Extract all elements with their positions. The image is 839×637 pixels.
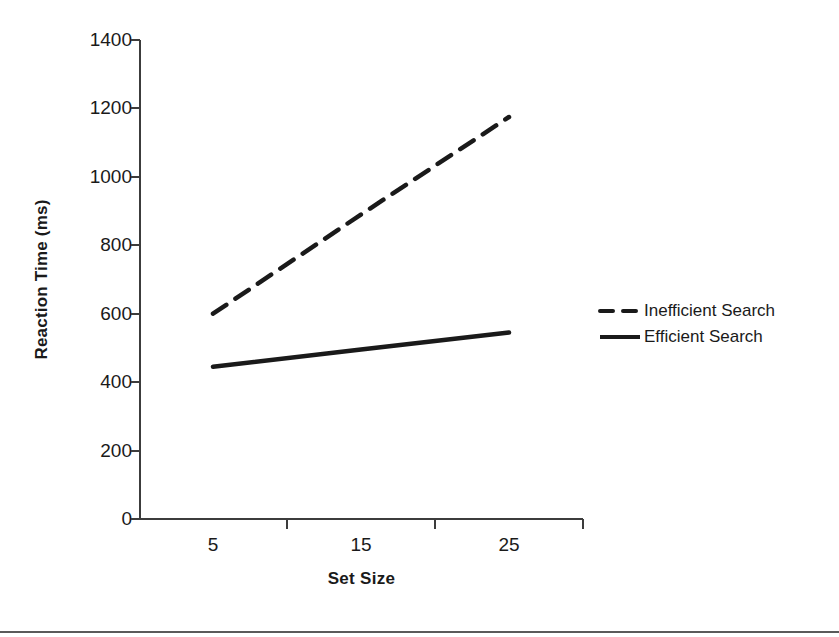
legend-label-efficient-search: Efficient Search bbox=[642, 327, 763, 347]
legend-item-inefficient-search: Inefficient Search bbox=[598, 298, 828, 324]
x-axis bbox=[140, 519, 583, 529]
bottom-divider bbox=[0, 631, 839, 633]
legend-swatch-dashed-line-icon bbox=[598, 303, 642, 319]
line-chart-figure: Reaction Time (ms) 0 200 400 600 800 100… bbox=[0, 0, 839, 637]
y-axis bbox=[131, 40, 140, 519]
legend-item-efficient-search: Efficient Search bbox=[598, 324, 828, 350]
legend-label-inefficient-search: Inefficient Search bbox=[642, 301, 775, 321]
series-line-inefficient-search bbox=[213, 117, 509, 314]
series-line-efficient-search bbox=[213, 333, 509, 367]
chart-legend: Inefficient Search Efficient Search bbox=[598, 298, 828, 350]
legend-swatch-solid-line-icon bbox=[598, 329, 642, 345]
